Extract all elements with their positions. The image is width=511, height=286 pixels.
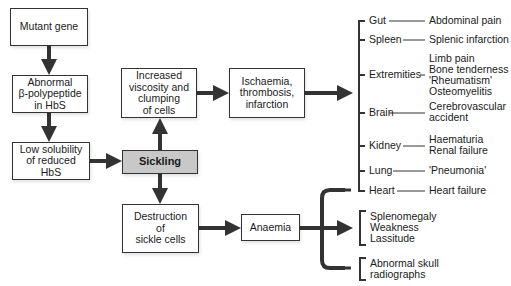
effect-heart: Heart failure	[429, 185, 486, 196]
effect-brackets	[360, 211, 366, 280]
anaemia-effects-group2: Abnormal skull radiographs	[370, 258, 439, 280]
low-solubility-box: Low solubility of reduced HbS	[12, 142, 90, 180]
organ-bracket	[359, 20, 365, 192]
effect-lung: 'Pneumonia'	[429, 165, 486, 176]
organ-heart: Heart	[369, 185, 395, 196]
effect-brain: Cerebrovascular accident	[429, 101, 506, 123]
effect-spleen: Splenic infarction	[429, 34, 509, 45]
organ-spleen: Spleen	[369, 34, 402, 45]
sickling-box: Sickling	[122, 150, 198, 174]
effect-gut: Abdominal pain	[429, 15, 501, 26]
abnormal-polypeptide-box: Abnormal β-polypeptide in HbS	[12, 75, 88, 113]
organ-gut: Gut	[369, 15, 386, 26]
organ-extremities: Extremities	[369, 69, 421, 80]
mutant-gene-box: Mutant gene	[10, 8, 88, 46]
anaemia-effects-group1: Splenomegaly Weakness Lassitude	[370, 211, 437, 244]
destruction-box: Destruction of sickle cells	[122, 204, 199, 253]
organ-brain: Brain	[369, 107, 394, 118]
organ-kidney: Kidney	[369, 140, 401, 151]
organ-dash-lines	[389, 21, 425, 191]
organ-lung: Lung	[369, 165, 392, 176]
ischaemia-box: Ischaemia, thrombosis, infarction	[229, 68, 305, 118]
effect-kidney: Haematuria Renal failure	[429, 134, 488, 156]
increased-viscosity-box: Increased viscosity and clumping of cell…	[121, 68, 197, 118]
effect-extremities: Limb pain Bone tenderness 'Rheumatism' O…	[429, 53, 508, 97]
anaemia-box: Anaemia	[241, 214, 300, 241]
